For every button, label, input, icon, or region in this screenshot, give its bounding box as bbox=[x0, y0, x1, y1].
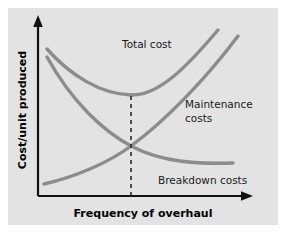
chart-figure: Total cost Maintenance costs Breakdown c… bbox=[0, 0, 287, 233]
label-maintenance-line1: Maintenance bbox=[185, 98, 253, 110]
label-maintenance-line2: costs bbox=[185, 112, 212, 124]
x-axis-arrowhead bbox=[241, 191, 253, 201]
label-total-cost: Total cost bbox=[121, 38, 172, 50]
y-axis-arrowhead bbox=[33, 15, 43, 27]
label-breakdown-costs: Breakdown costs bbox=[158, 174, 247, 186]
y-axis-title: Cost/unit produced bbox=[16, 51, 29, 169]
chart-plot-area: Total cost Maintenance costs Breakdown c… bbox=[0, 0, 287, 233]
x-axis-title: Frequency of overhaul bbox=[74, 207, 213, 220]
